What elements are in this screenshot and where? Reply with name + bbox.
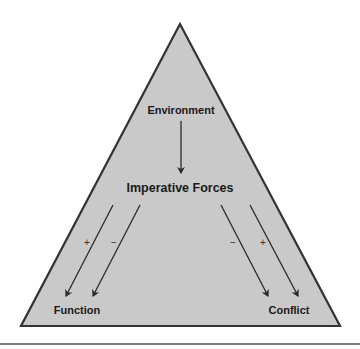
- node-function: Function: [54, 304, 101, 316]
- sign-function-minus: −: [111, 237, 117, 248]
- node-conflict: Conflict: [269, 304, 310, 316]
- sign-conflict-plus: +: [260, 237, 266, 248]
- sign-function-plus: +: [84, 237, 90, 248]
- triangle-shape: [21, 24, 340, 326]
- node-environment: Environment: [147, 104, 215, 116]
- triangle-diagram: Environment Imperative Forces Function C…: [0, 0, 360, 349]
- node-imperative-forces: Imperative Forces: [127, 181, 234, 195]
- sign-conflict-minus: −: [230, 237, 236, 248]
